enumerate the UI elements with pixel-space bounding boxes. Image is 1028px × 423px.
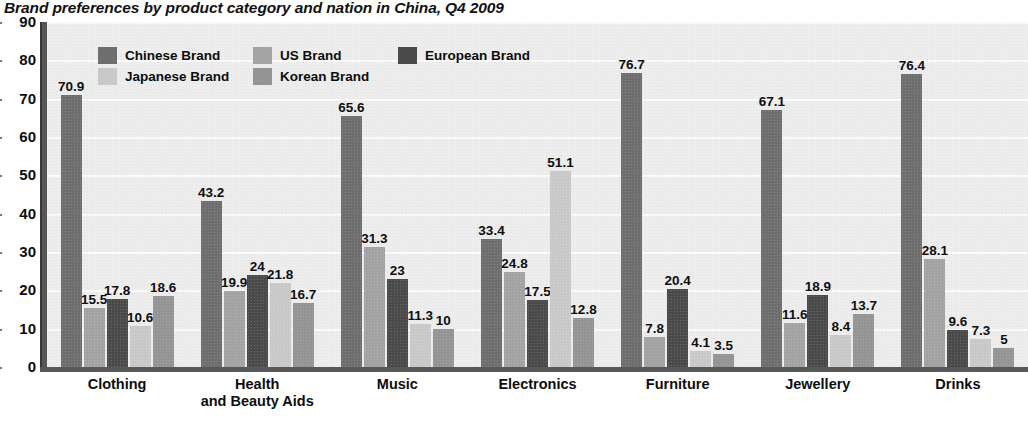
bar-value-label: 76.7 [619, 57, 645, 72]
bar-texture [270, 283, 291, 367]
y-tick-mark [0, 175, 2, 177]
legend-item-japanese-brand[interactable]: Japanese Brand [98, 67, 229, 86]
bar-texture [364, 247, 385, 367]
bar: 31.3 [364, 247, 385, 367]
y-axis-tick-labels: 9080706050403020100 [0, 22, 36, 367]
bar: 24.8 [504, 272, 525, 367]
legend-item-european-brand[interactable]: European Brand [398, 46, 530, 65]
x-label-drinks: Drinks [935, 376, 980, 393]
legend-label: European Brand [425, 48, 530, 63]
bar-texture [201, 201, 222, 367]
chart-legend: Chinese BrandUS BrandEuropean BrandJapan… [98, 46, 518, 86]
y-tick-mark [0, 367, 2, 369]
bar-value-label: 21.8 [267, 267, 293, 282]
bar: 51.1 [550, 171, 571, 367]
bar-texture [621, 73, 642, 367]
bar: 10 [433, 329, 454, 367]
y-tick-label-60: 60 [2, 128, 36, 145]
bar: 33.4 [481, 239, 502, 367]
bar-texture [224, 291, 245, 367]
bar-texture [247, 275, 268, 367]
bar: 65.6 [341, 116, 362, 367]
legend-item-chinese-brand[interactable]: Chinese Brand [98, 46, 220, 65]
bar: 19.9 [224, 291, 245, 367]
bar: 9.6 [947, 330, 968, 367]
bar: 11.3 [410, 324, 431, 367]
x-label-health: Health and Beauty Aids [201, 376, 314, 410]
bar: 20.4 [667, 289, 688, 367]
bar: 76.4 [901, 74, 922, 367]
bar-value-label: 65.6 [338, 100, 364, 115]
bar-texture [433, 329, 454, 367]
bar-texture [61, 95, 82, 367]
bar-value-label: 9.6 [949, 314, 968, 329]
legend-swatch-icon [98, 47, 117, 64]
y-tick-mark [0, 99, 2, 101]
legend-swatch-icon [398, 47, 417, 64]
bar-texture [153, 296, 174, 367]
bar-texture [550, 171, 571, 367]
bar: 17.5 [527, 300, 548, 367]
x-label-music: Music [377, 376, 418, 393]
bar-texture [901, 74, 922, 367]
bar-value-label: 5 [1000, 332, 1008, 347]
bar-texture [387, 279, 408, 367]
bar-texture [84, 308, 105, 367]
legend-item-us-brand[interactable]: US Brand [253, 46, 342, 65]
bar: 18.6 [153, 296, 174, 367]
legend-swatch-icon [98, 68, 117, 85]
bar-value-label: 28.1 [922, 243, 948, 258]
bar-value-label: 43.2 [198, 185, 224, 200]
y-tick-label-10: 10 [2, 320, 36, 337]
bar: 8.4 [830, 335, 851, 367]
legend-item-korean-brand[interactable]: Korean Brand [253, 67, 369, 86]
bar-value-label: 18.9 [805, 279, 831, 294]
bar: 5 [993, 348, 1014, 367]
bar-texture [667, 289, 688, 367]
gridline-30 [47, 252, 1028, 254]
bar-value-label: 23 [390, 263, 405, 278]
y-tick-mark [0, 214, 2, 216]
bar-texture [527, 300, 548, 367]
bar-value-label: 7.8 [645, 321, 664, 336]
y-tick-label-50: 50 [2, 166, 36, 183]
bar: 28.1 [924, 259, 945, 367]
legend-swatch-icon [253, 47, 272, 64]
bar-texture [644, 337, 665, 367]
x-label-clothing: Clothing [88, 376, 147, 393]
y-tick-label-0: 0 [2, 358, 36, 375]
y-tick-mark [0, 290, 2, 292]
x-axis-category-labels: ClothingHealth and Beauty AidsMusicElect… [47, 376, 1028, 423]
bar-texture [807, 295, 828, 367]
bar-value-label: 4.1 [691, 335, 710, 350]
bar-texture [853, 314, 874, 367]
y-tick-mark [0, 60, 2, 62]
bar-value-label: 8.4 [831, 319, 850, 334]
gridline-60 [47, 137, 1028, 139]
y-tick-label-20: 20 [2, 281, 36, 298]
y-axis-spine [40, 22, 47, 367]
bar-value-label: 17.5 [524, 284, 550, 299]
bar-texture [924, 259, 945, 367]
bar-value-label: 70.9 [58, 79, 84, 94]
bar-value-label: 16.7 [290, 287, 316, 302]
bar: 23 [387, 279, 408, 367]
bar: 10.6 [130, 326, 151, 367]
y-tick-mark [0, 22, 2, 24]
bar-value-label: 51.1 [547, 155, 573, 170]
y-tick-label-40: 40 [2, 205, 36, 222]
bar-texture [761, 110, 782, 367]
bar: 17.8 [107, 299, 128, 367]
y-tick-mark [0, 252, 2, 254]
y-tick-mark [0, 137, 2, 139]
bar: 13.7 [853, 314, 874, 367]
bar: 70.9 [61, 95, 82, 367]
bar-value-label: 67.1 [759, 94, 785, 109]
gridline-40 [47, 214, 1028, 216]
bar-texture [504, 272, 525, 367]
chart-title: Brand preferences by product category an… [4, 0, 504, 17]
y-tick-label-90: 90 [2, 13, 36, 30]
bar-value-label: 13.7 [851, 298, 877, 313]
bar-value-label: 12.8 [570, 302, 596, 317]
bar-texture [784, 323, 805, 367]
